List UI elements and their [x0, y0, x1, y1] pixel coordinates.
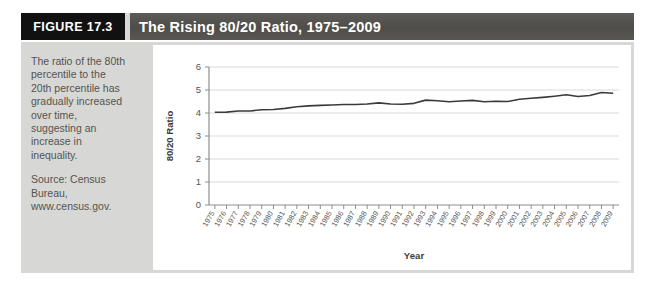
caption-block: The ratio of the 80th percentile to the …	[31, 55, 127, 213]
figure-body-panel: The ratio of the 80th percentile to the …	[21, 42, 634, 273]
figure-container: FIGURE 17.3 The Rising 80/20 Ratio, 1975…	[0, 0, 655, 306]
y-axis-ticks: 0123456	[196, 61, 209, 210]
x-axis-title: Year	[404, 250, 425, 261]
x-tick-label: 2009	[599, 210, 615, 229]
x-axis-ticks: 1975197619771978197919801981198219831984…	[201, 205, 615, 228]
y-tick-label: 5	[196, 84, 201, 95]
y-tick-label: 6	[196, 61, 201, 72]
line-chart: 0123456 19751976197719781979198019811982…	[153, 45, 631, 270]
y-tick-label: 1	[196, 176, 201, 187]
y-tick-label: 3	[196, 130, 201, 141]
caption-text: The ratio of the 80th percentile to the …	[31, 55, 127, 162]
figure-header-bar: FIGURE 17.3 The Rising 80/20 Ratio, 1975…	[21, 13, 634, 40]
chart-plot-panel: 0123456 19751976197719781979198019811982…	[153, 45, 631, 270]
y-axis-title: 80/20 Ratio	[164, 111, 175, 162]
y-tick-label: 0	[196, 199, 201, 210]
y-tick-label: 2	[196, 153, 201, 164]
data-series-line	[215, 93, 613, 113]
figure-number-label: FIGURE 17.3	[33, 20, 112, 34]
figure-number-badge: FIGURE 17.3	[21, 13, 125, 40]
y-tick-label: 4	[196, 107, 201, 118]
header-divider	[125, 13, 130, 40]
caption-source: Source: Census Bureau, www.census.gov.	[31, 173, 127, 213]
grid-lines	[209, 67, 619, 182]
figure-title: The Rising 80/20 Ratio, 1975–2009	[139, 13, 381, 40]
